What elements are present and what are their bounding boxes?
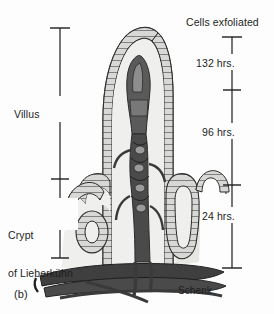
crypt-cross-section <box>76 211 108 253</box>
villus <box>103 27 173 268</box>
label-villus: Villus <box>14 108 40 121</box>
time-scale <box>214 37 256 268</box>
artist-credit: Schenk <box>178 285 212 298</box>
bracket-label-gap-villus <box>42 96 78 122</box>
label-96-hours: 96 hrs. <box>202 126 235 139</box>
label-crypt-line1: Crypt <box>8 229 73 242</box>
label-cells-exfoliated: Cells exfoliated <box>186 16 259 29</box>
label-132-hours: 132 hrs. <box>196 57 235 70</box>
panel-label: (b) <box>14 288 28 301</box>
figure-intestinal-villus: Villus Crypt of Lieberkühn Cells exfolia… <box>0 0 274 314</box>
label-crypt-line2: of Lieberkühn <box>8 267 73 280</box>
label-24-hours: 24 hrs. <box>202 210 235 223</box>
